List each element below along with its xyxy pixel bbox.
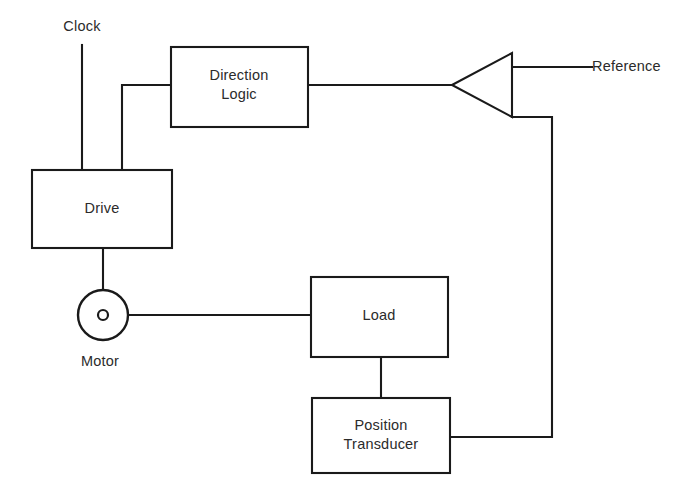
block-label-position-transducer: Position Transducer xyxy=(301,416,461,454)
wire-position-transducer-feedback xyxy=(450,117,552,437)
block-label-load: Load xyxy=(309,306,449,325)
motor-label: Motor xyxy=(40,352,160,371)
position-transducer-line-2: Transducer xyxy=(301,435,461,454)
position-transducer-line-1: Position xyxy=(301,416,461,435)
direction-logic-line-1: Direction xyxy=(169,66,309,85)
block-label-direction-logic: Direction Logic xyxy=(169,66,309,104)
drive-line-1: Drive xyxy=(32,199,172,218)
signal-label-reference: Reference xyxy=(592,57,661,76)
block-diagram-canvas: Direction Logic Drive Load Position Tran… xyxy=(0,0,698,503)
signal-label-clock: Clock xyxy=(22,17,142,36)
motor-shaft-dot-icon xyxy=(98,310,108,320)
comparator-triangle[interactable] xyxy=(452,53,512,117)
block-label-drive: Drive xyxy=(32,199,172,218)
wire-drive-to-direction-logic xyxy=(122,85,171,170)
load-line-1: Load xyxy=(309,306,449,325)
direction-logic-line-2: Logic xyxy=(169,85,309,104)
